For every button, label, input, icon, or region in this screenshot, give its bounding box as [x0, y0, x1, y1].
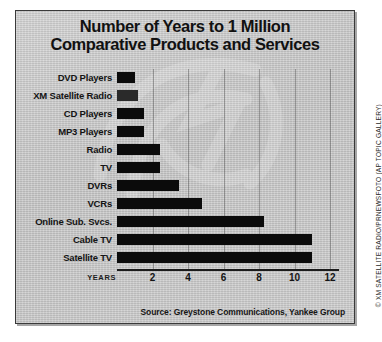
category-axis-labels: DVD PlayersXM Satellite RadioCD PlayersM… [16, 69, 117, 269]
bar [117, 234, 312, 245]
category-label: Radio [87, 144, 112, 155]
chart-title-line-1: Number of Years to 1 Million [80, 17, 290, 35]
category-label: MP3 Players [58, 126, 112, 137]
x-tick-label: 2 [150, 272, 156, 283]
category-label: XM Satellite Radio [33, 90, 112, 101]
bars-container [117, 69, 339, 269]
x-tick-label: 6 [221, 272, 227, 283]
bar [117, 180, 179, 191]
bar [117, 162, 160, 173]
category-label: CD Players [64, 108, 112, 119]
chart-panel: Number of Years to 1 Million Comparative… [15, 10, 355, 324]
chart-title-line-2: Comparative Products and Services [16, 35, 354, 53]
x-tick-label: 12 [325, 272, 336, 283]
category-label: DVRs [87, 180, 112, 191]
bar [117, 126, 144, 137]
chart-title: Number of Years to 1 Million Comparative… [16, 17, 354, 53]
plot-area: DVD PlayersXM Satellite RadioCD PlayersM… [16, 69, 354, 281]
bar [117, 72, 135, 83]
bar [117, 198, 202, 209]
category-label: VCRs [87, 198, 112, 209]
source-note: Source: Greystone Communications, Yankee… [141, 307, 346, 317]
bar [117, 108, 144, 119]
x-tick-label: 4 [185, 272, 191, 283]
category-label: Online Sub. Svcs. [35, 216, 112, 227]
category-label: TV [100, 162, 112, 173]
category-label: DVD Players [58, 72, 112, 83]
x-axis-label: YEARS [76, 273, 116, 282]
bar [117, 252, 312, 263]
copyright-credit: © XM SATELLITE RADIO/PRNEWSFOTO (AP TOPI… [375, 104, 382, 307]
x-axis-line [117, 269, 339, 271]
x-tick-label: 8 [256, 272, 262, 283]
x-axis-ticks: 24681012 [117, 272, 339, 286]
gridline [330, 69, 331, 269]
category-label: Cable TV [73, 234, 112, 245]
bar [117, 144, 160, 155]
category-label: Satellite TV [63, 252, 112, 263]
bar [117, 216, 264, 227]
bar [117, 90, 138, 101]
x-tick-label: 10 [289, 272, 300, 283]
